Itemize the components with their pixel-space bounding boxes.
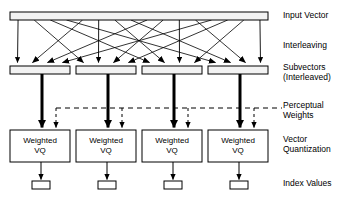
interleave-line-3 [48,20,148,63]
interleaving-lines [18,20,261,63]
interleaved-vq-diagram: Input Vector Interleaving Subvectors (In… [0,0,355,200]
weighted-vq-label-2: Weighted VQ [76,136,136,155]
stage-label-perceptual-weights: Perceptual Weights [283,100,324,120]
index-value-box-2 [98,181,116,189]
subvector-bar-2 [76,66,136,74]
stage-label-subvectors: Subvectors (Interleaved) [283,62,331,82]
perceptual-weights-layer [56,108,282,128]
bars-layer [10,12,268,74]
index-value-box-3 [164,181,182,189]
index-value-box-1 [32,181,50,189]
interleave-line-8 [129,20,228,63]
index-boxes-layer [32,162,248,189]
stage-label-interleaving: Interleaving [283,40,327,50]
thick-arrows-layer [42,74,240,128]
interleave-line-14 [131,20,231,63]
interleave-line-1 [18,20,19,63]
input-vector-bar [10,12,268,20]
weighted-vq-label-3: Weighted VQ [142,136,202,155]
interleave-line-5 [34,20,83,63]
interleave-line-13 [66,20,215,63]
stage-label-input-vector: Input Vector [283,10,328,20]
subvector-bar-3 [142,66,202,74]
stage-label-vector-quantization: Vector Quantization [283,134,331,154]
index-value-box-4 [230,181,248,189]
weighted-vq-label-4: Weighted VQ [208,136,268,155]
interleave-line-12 [195,20,244,63]
interleave-line-15 [195,20,245,63]
interleave-line-4 [63,20,212,63]
subvector-bar-4 [208,66,268,74]
stage-label-index-values: Index Values [283,178,332,188]
interleave-line-9 [50,20,149,63]
interleave-line-7 [114,20,164,63]
interleave-line-16 [260,20,261,63]
interleave-line-2 [33,20,83,63]
subvector-bar-1 [10,66,70,74]
weighted-vq-label-1: Weighted VQ [10,136,70,155]
